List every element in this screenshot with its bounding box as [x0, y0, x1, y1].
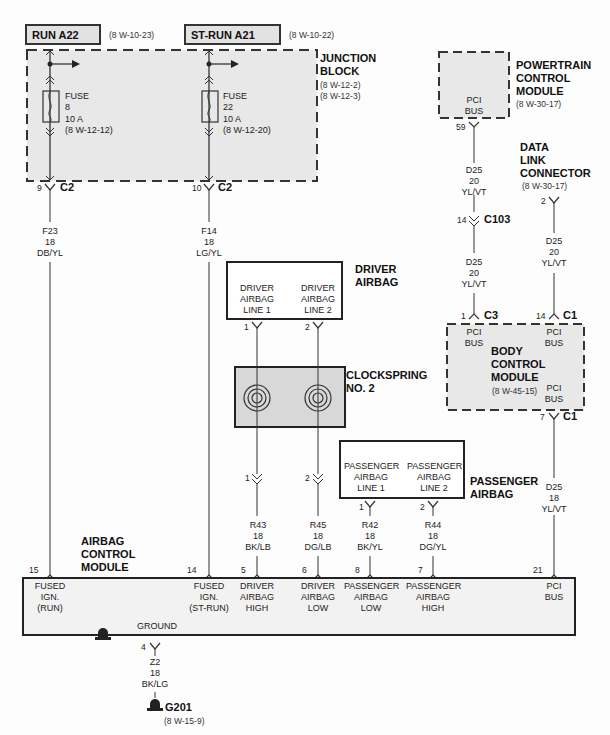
- wire-r44-label: R44 18 DG/YL: [418, 520, 448, 553]
- pcm-title-1: POWERTRAIN: [516, 59, 591, 72]
- source-st-run-a21-ref: (8 W-10-22): [289, 30, 334, 41]
- passenger-airbag-pin-2: 2: [420, 502, 425, 513]
- c2-connector-label-1: C2: [60, 182, 74, 193]
- pcm-pin-59: 59: [456, 122, 465, 133]
- source-run-a22-ref: (8 W-10-23): [109, 30, 154, 41]
- acm-pin-8: 8: [355, 565, 360, 576]
- wire-d25-dlc-label: D25 20 YL/VT: [540, 236, 568, 269]
- acm-terminal-pci-bus: PCI BUS: [543, 581, 565, 603]
- junction-block-ref-2: (8 W-12-3): [320, 91, 360, 102]
- bcm-connector-c3: C3: [484, 310, 498, 321]
- wire-r42-label: R42 18 BK/YL: [355, 520, 385, 553]
- passenger-airbag-pin-1: 1: [359, 502, 364, 513]
- driver-airbag-pin-2: 2: [305, 322, 310, 333]
- acm-title-2: CONTROL: [81, 548, 135, 561]
- g201-ground-icon: [147, 699, 163, 711]
- acm-title-1: AIRBAG: [81, 535, 124, 548]
- acm-ground-label: GROUND: [137, 621, 177, 632]
- bcm-title-3: MODULE: [491, 371, 539, 384]
- driver-airbag-terminal-line2: DRIVER AIRBAG LINE 2: [301, 283, 335, 316]
- dlc-pin-2: 2: [541, 196, 546, 207]
- driver-airbag-title-1: DRIVER: [355, 263, 397, 276]
- junction-block-ref-1: (8 W-12-2): [320, 80, 360, 91]
- acm-terminal-driver-airbag-low: DRIVER AIRBAG LOW: [299, 581, 337, 614]
- acm-pin-21: 21: [533, 565, 542, 576]
- wire-d25-pcm-top-label: D25 20 YL/VT: [460, 165, 488, 198]
- acm-pin-6: 6: [302, 565, 307, 576]
- acm-title-3: MODULE: [81, 561, 129, 574]
- ground-g201-ref: (8 W-15-9): [164, 716, 204, 727]
- acm-terminal-fused-ign-run: FUSED IGN. (RUN): [30, 581, 70, 614]
- wire-f14-label: F14 18 LG/YL: [195, 226, 223, 259]
- wire-f23-label: F23 18 DB/YL: [36, 226, 64, 259]
- passenger-airbag-title-1: PASSENGER: [470, 475, 538, 488]
- c103-connector-label: C103: [484, 214, 510, 225]
- acm-pin-4: 4: [141, 642, 146, 653]
- c2-pin-10: 10: [192, 183, 201, 194]
- junction-block-title-1: JUNCTION: [320, 52, 376, 65]
- dlc-title-1: DATA: [520, 141, 549, 154]
- wiring-diagram: RUN A22 (8 W-10-23) ST-RUN A21 (8 W-10-2…: [0, 0, 610, 735]
- acm-pin-5: 5: [241, 565, 246, 576]
- pcm-ref: (8 W-30-17): [516, 99, 561, 110]
- dlc-title-2: LINK: [520, 154, 546, 167]
- c2-pin-9: 9: [37, 183, 42, 194]
- c2-connector-label-2: C2: [218, 182, 232, 193]
- bcm-terminal-pci-bus-3: PCI BUS: [543, 383, 565, 405]
- wire-r45-label: R45 18 DG/LB: [303, 520, 333, 553]
- source-st-run-a21: ST-RUN A21: [184, 24, 281, 45]
- passenger-airbag-title-2: AIRBAG: [470, 488, 513, 501]
- bcm-terminal-pci-bus-1: PCI BUS: [463, 327, 485, 349]
- acm-pin-15: 15: [29, 565, 38, 576]
- wire-z2-label: Z2 18 BK/LG: [141, 657, 169, 690]
- acm-pin-7: 7: [418, 565, 423, 576]
- driver-airbag-title-2: AIRBAG: [355, 276, 398, 289]
- acm-terminal-driver-airbag-high: DRIVER AIRBAG HIGH: [238, 581, 276, 614]
- acm-terminal-passenger-airbag-high: PASSENGER AIRBAG HIGH: [406, 581, 460, 614]
- acm-terminal-passenger-airbag-low: PASSENGER AIRBAG LOW: [344, 581, 398, 614]
- wire-r43-label: R43 18 BK/LB: [243, 520, 273, 553]
- driver-airbag-terminal-line1: DRIVER AIRBAG LINE 1: [240, 283, 274, 316]
- bcm-title-2: CONTROL: [491, 358, 545, 371]
- passenger-airbag-terminal-line1: PASSENGER AIRBAG LINE 1: [344, 461, 398, 494]
- wire-d25-pcm-bottom-label: D25 20 YL/VT: [460, 257, 488, 290]
- bcm-pin-7: 7: [540, 412, 545, 423]
- bcm-terminal-pci-bus-2: PCI BUS: [543, 327, 565, 349]
- passenger-airbag-terminal-line2: PASSENGER AIRBAG LINE 2: [407, 461, 461, 494]
- dlc-title-3: CONNECTOR: [520, 167, 591, 180]
- ground-g201-label: G201: [165, 702, 192, 713]
- acm-pin-14: 14: [187, 565, 196, 576]
- clockspring-title-2: NO. 2: [346, 382, 375, 395]
- driver-airbag-pin-1: 1: [244, 322, 249, 333]
- clockspring-pin-1: 1: [245, 473, 250, 484]
- bcm-pin-14: 14: [536, 311, 545, 322]
- junction-block-title-2: BLOCK: [320, 65, 359, 78]
- clockspring-title-1: CLOCKSPRING: [346, 369, 427, 382]
- bcm-connector-c1-top: C1: [563, 310, 577, 321]
- pcm-title-2: CONTROL: [516, 72, 570, 85]
- clockspring-pin-2: 2: [305, 473, 310, 484]
- bcm-connector-c1-bottom: C1: [563, 411, 577, 422]
- dlc-ref: (8 W-30-17): [522, 181, 567, 192]
- c103-pin: 14: [457, 215, 466, 226]
- bcm-pin-1: 1: [461, 311, 466, 322]
- pcm-terminal-pci-bus: PCI BUS: [464, 95, 484, 117]
- pcm-title-3: MODULE: [516, 85, 564, 98]
- bcm-title-1: BODY: [491, 345, 523, 358]
- acm-terminal-fused-ign-st-run: FUSED IGN. (ST-RUN): [187, 581, 231, 614]
- bcm-ref: (8 W-45-15): [492, 386, 537, 397]
- source-run-a22: RUN A22: [25, 24, 101, 45]
- wire-d25-bcm-label: D25 18 YL/VT: [540, 482, 568, 515]
